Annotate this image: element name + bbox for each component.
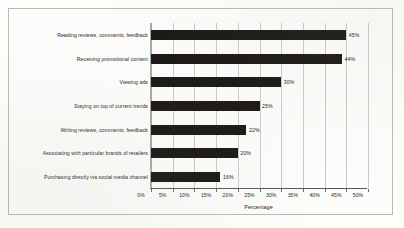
- bar: [151, 101, 260, 111]
- x-tick-label: 35%: [288, 192, 298, 198]
- category-label: Viewing ads: [120, 79, 148, 85]
- bar-row: Staying on top of current trends25%: [151, 94, 367, 118]
- bar-rows: Reading reviews, comments, feedback45%Re…: [151, 23, 367, 188]
- bar-value-label: 16%: [223, 174, 234, 180]
- bar-value-label: 44%: [344, 56, 355, 62]
- tick-mark: [260, 189, 261, 192]
- bar-row: Reading reviews, comments, feedback45%: [151, 23, 367, 47]
- tick-mark: [368, 189, 369, 192]
- tick-mark: [194, 189, 195, 192]
- x-axis-title: Percentage: [150, 204, 367, 210]
- x-tick-label: 25%: [244, 192, 254, 198]
- x-tick-label: 45%: [331, 192, 341, 198]
- bar-value-label: 20%: [240, 150, 251, 156]
- category-label: Associating with particular brands of re…: [43, 150, 148, 156]
- bar: [151, 54, 342, 64]
- tick-mark: [346, 189, 347, 192]
- bar-value-label: 45%: [349, 32, 360, 38]
- x-tick-label: 10%: [179, 192, 189, 198]
- bar-value-label: 22%: [249, 127, 260, 133]
- category-label: Purchasing directly via social media cha…: [44, 174, 148, 180]
- category-label: Writing reviews, comments, feedback: [60, 127, 148, 133]
- x-tick-label: 0%: [137, 192, 144, 198]
- bar-row: Viewing ads30%: [151, 70, 367, 94]
- tick-mark: [325, 189, 326, 192]
- tick-mark: [238, 189, 239, 192]
- category-label: Receiving promotional content: [77, 56, 148, 62]
- bar-value-label: 25%: [262, 103, 273, 109]
- figure-frame: Reading reviews, comments, feedback45%Re…: [8, 8, 393, 215]
- bar-row: Writing reviews, comments, feedback22%: [151, 118, 367, 142]
- tick-mark: [281, 189, 282, 192]
- x-tick-label: 20%: [223, 192, 233, 198]
- tick-mark: [216, 189, 217, 192]
- x-tick-label: 50%: [353, 192, 363, 198]
- bar-value-label: 30%: [284, 79, 295, 85]
- bar: [151, 148, 238, 158]
- tick-mark: [151, 189, 152, 192]
- x-tick-label: 40%: [309, 192, 319, 198]
- tick-mark: [303, 189, 304, 192]
- plot-area: Reading reviews, comments, feedback45%Re…: [150, 23, 367, 189]
- chart-figure: Reading reviews, comments, feedback45%Re…: [0, 0, 404, 228]
- gridline-50: [368, 23, 369, 188]
- tick-mark: [173, 189, 174, 192]
- x-tick-label: 30%: [266, 192, 276, 198]
- bar-row: Purchasing directly via social media cha…: [151, 165, 367, 189]
- x-tick-label: 5%: [159, 192, 166, 198]
- x-tick-label: 15%: [201, 192, 211, 198]
- bar: [151, 172, 220, 182]
- bar: [151, 77, 281, 87]
- bar-row: Associating with particular brands of re…: [151, 142, 367, 166]
- bar: [151, 125, 246, 135]
- bar: [151, 30, 346, 40]
- category-label: Staying on top of current trends: [74, 103, 148, 109]
- category-label: Reading reviews, comments, feedback: [57, 32, 148, 38]
- bar-row: Receiving promotional content44%: [151, 47, 367, 71]
